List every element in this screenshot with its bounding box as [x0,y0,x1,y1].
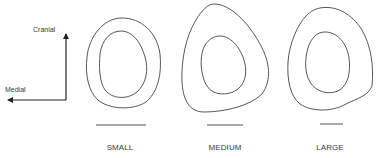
small-label: SMALL [107,143,134,152]
medium-label: MEDIUM [208,143,241,152]
large-outer-contour [288,7,373,110]
small-inner-contour [100,31,147,97]
cranial-label: Cranial [33,26,55,33]
medium-inner-contour [201,36,246,94]
medial-label: Medial [5,86,26,93]
medium-outer-contour [182,4,269,112]
diagram-canvas [0,0,379,158]
medium-cross-section [182,4,269,112]
large-inner-contour [306,32,350,93]
large-cross-section [288,7,373,110]
large-label: LARGE [316,143,344,152]
small-cross-section [86,18,160,108]
